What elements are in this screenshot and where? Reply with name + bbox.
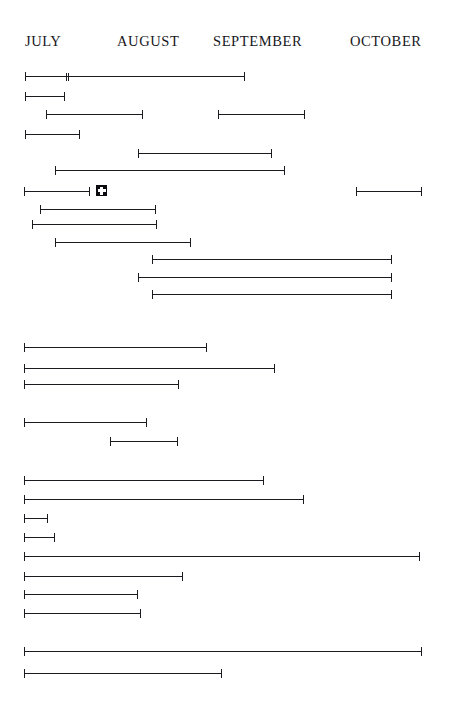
bar-start-cap [25,72,26,81]
bar-end-cap [391,255,392,264]
timeline-bar[interactable] [46,114,143,115]
timeline-row[interactable] [0,435,455,449]
bar-end-cap [419,552,420,561]
bar-start-cap [55,166,56,175]
bar-end-cap [155,205,156,214]
timeline-row[interactable] [0,570,455,584]
bar-start-cap [24,647,25,656]
bar-start-cap [110,437,111,446]
timeline-bar[interactable] [218,114,305,115]
bar-end-cap [303,495,304,504]
bar-start-cap [152,255,153,264]
timeline-row[interactable] [0,253,455,267]
timeline-row[interactable] [0,378,455,392]
timeline-bar[interactable] [110,441,178,442]
timeline-bar[interactable] [24,651,422,652]
timeline-bar[interactable] [24,518,48,519]
timeline-row[interactable] [0,416,455,430]
timeline-row[interactable] [0,667,455,681]
timeline-bar[interactable] [152,259,392,260]
bar-start-cap [24,418,25,427]
bar-start-cap [25,92,26,101]
plus-square-icon[interactable] [96,185,107,196]
timeline-bar[interactable] [24,576,183,577]
timeline-bar[interactable] [25,76,245,77]
bar-start-cap [55,238,56,247]
bar-end-cap [284,166,285,175]
timeline-bar[interactable] [24,673,222,674]
timeline-bar[interactable] [40,209,156,210]
timeline-row[interactable] [0,341,455,355]
timeline-bar[interactable] [24,537,55,538]
bar-end-cap [140,609,141,618]
timeline-row[interactable] [0,607,455,621]
bar-start-cap [24,514,25,523]
bar-start-cap [24,380,25,389]
timeline-bar[interactable] [24,347,207,348]
timeline-bar[interactable] [356,191,422,192]
bar-end-cap [79,130,80,139]
bar-end-cap [391,290,392,299]
timeline-bar[interactable] [32,224,157,225]
timeline-bar[interactable] [138,277,392,278]
bar-start-cap [152,290,153,299]
timeline-row[interactable] [0,164,455,178]
timeline-bar[interactable] [24,422,147,423]
bar-end-cap [190,238,191,247]
timeline-row[interactable] [0,236,455,250]
timeline-bar[interactable] [25,134,80,135]
timeline-row[interactable] [0,645,455,659]
bar-start-cap [356,187,357,196]
timeline-row[interactable] [0,474,455,488]
bar-start-cap [40,205,41,214]
timeline-bar[interactable] [24,368,275,369]
timeline-row[interactable] [0,588,455,602]
timeline-bar[interactable] [24,499,304,500]
timeline-row[interactable] [0,218,455,232]
timeline-row[interactable] [0,128,455,142]
bar-start-cap [46,110,47,119]
bar-end-cap [177,437,178,446]
timeline-bar[interactable] [24,594,138,595]
timeline-bar[interactable] [55,170,285,171]
timeline-bar[interactable] [24,480,264,481]
timeline-bar[interactable] [152,294,392,295]
timeline-row[interactable] [0,108,455,122]
bar-start-cap [24,590,25,599]
gantt-timeline-chart: JULYAUGUSTSEPTEMBEROCTOBER [0,0,455,725]
timeline-row[interactable] [0,90,455,104]
bar-end-cap [271,149,272,158]
bar-end-cap [304,110,305,119]
timeline-row[interactable] [0,288,455,302]
bar-interval-tick [66,73,67,81]
timeline-row[interactable] [0,147,455,161]
timeline-row[interactable] [0,271,455,285]
timeline-row[interactable] [0,493,455,507]
timeline-bar[interactable] [55,242,191,243]
bar-end-cap [142,110,143,119]
bar-start-cap [24,572,25,581]
timeline-row[interactable] [0,362,455,376]
bar-end-cap [182,572,183,581]
timeline-bar[interactable] [24,613,141,614]
timeline-bar[interactable] [24,384,179,385]
timeline-bar[interactable] [24,191,90,192]
bar-end-cap [156,220,157,229]
timeline-row[interactable] [0,185,455,199]
bar-end-cap [64,92,65,101]
timeline-bar[interactable] [25,96,65,97]
timeline-bar[interactable] [24,556,420,557]
bar-start-cap [24,609,25,618]
timeline-bar[interactable] [138,153,272,154]
bar-end-cap [244,72,245,81]
timeline-row[interactable] [0,70,455,84]
timeline-row[interactable] [0,531,455,545]
timeline-row[interactable] [0,550,455,564]
bar-start-cap [24,343,25,352]
bar-start-cap [32,220,33,229]
bar-end-cap [421,187,422,196]
timeline-row[interactable] [0,512,455,526]
bar-end-cap [89,187,90,196]
timeline-row[interactable] [0,203,455,217]
bar-end-cap [391,273,392,282]
